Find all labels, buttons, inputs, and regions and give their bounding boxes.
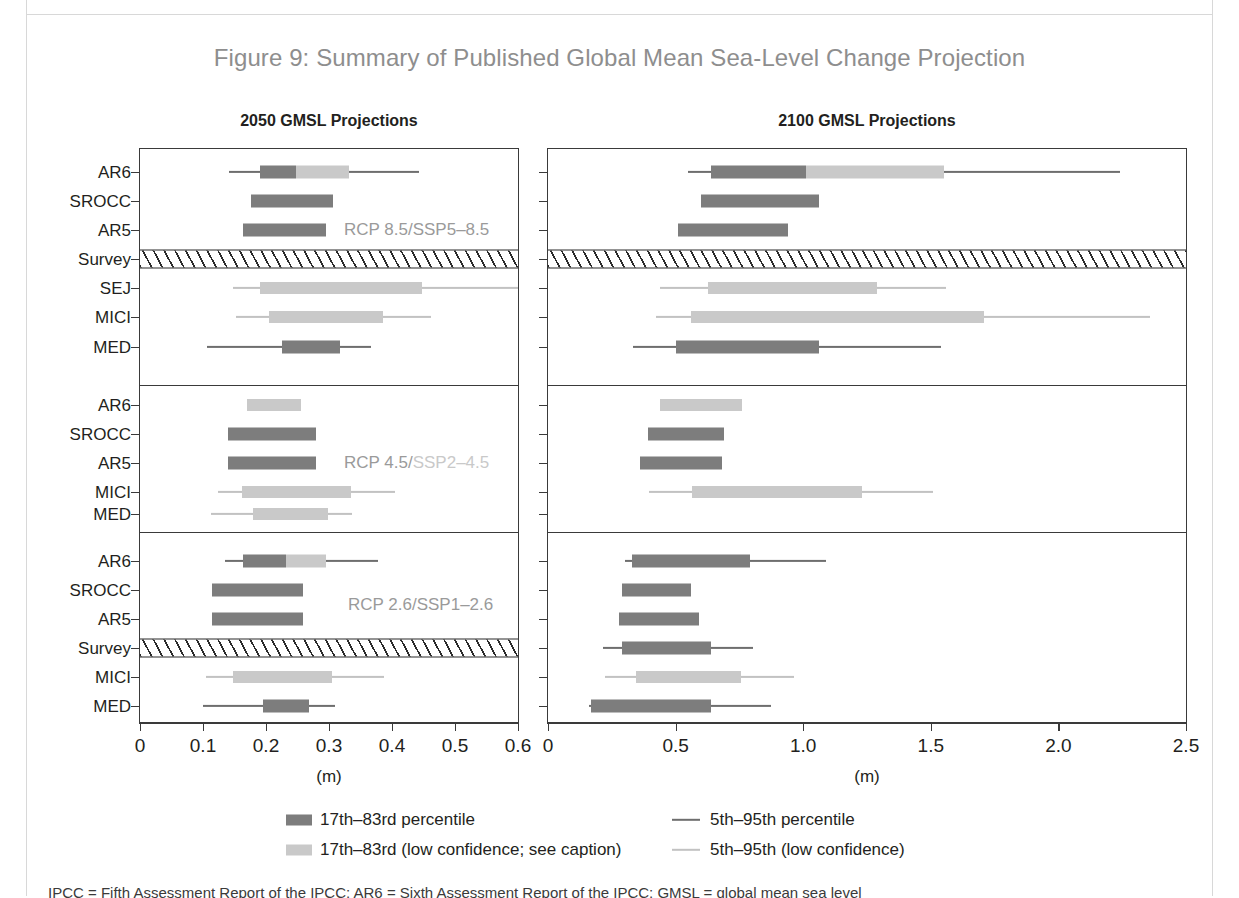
box-2100 xyxy=(619,613,698,626)
x-tick xyxy=(455,723,456,731)
survey-hatch-band xyxy=(140,250,518,269)
box-2050 xyxy=(253,508,327,520)
y-tick xyxy=(131,405,140,406)
box-2100 xyxy=(678,224,788,237)
box-2100 xyxy=(648,428,725,441)
legend-label-hc-line: 5th–95th percentile xyxy=(710,810,855,830)
y-tick xyxy=(539,677,548,678)
x-tick xyxy=(203,723,204,731)
row-label-column: AR6SROCCAR5SurveySEJMICIMEDAR6SROCCAR5MI… xyxy=(0,0,131,896)
x-tick-label: 0.2 xyxy=(253,735,279,757)
row-label-ar6: AR6 xyxy=(98,553,131,570)
row-label-mici: MICI xyxy=(95,309,131,326)
box-2100 xyxy=(708,282,878,294)
scenario-label: RCP 8.5/SSP5–8.5 xyxy=(344,220,489,240)
box-2050 xyxy=(233,671,332,683)
panel-title-2050: 2050 GMSL Projections xyxy=(140,112,518,130)
x-tick xyxy=(931,723,932,731)
x-tick-label: 1.0 xyxy=(790,735,816,757)
x-tick xyxy=(329,723,330,731)
y-tick xyxy=(539,706,548,707)
x-tick xyxy=(392,723,393,731)
box-2050 xyxy=(228,457,316,470)
box-2100 xyxy=(622,584,691,597)
box-2100 xyxy=(632,555,749,568)
box-2050 xyxy=(251,195,333,208)
x-tick-label: 0 xyxy=(543,735,554,757)
y-tick xyxy=(539,230,548,231)
legend-label-hc-box: 17th–83rd percentile xyxy=(320,810,475,830)
row-label-ar5: AR5 xyxy=(98,455,131,472)
survey-hatch-band xyxy=(140,639,518,658)
box-2100 xyxy=(636,671,741,683)
row-label-ar6: AR6 xyxy=(98,164,131,181)
y-tick xyxy=(539,201,548,202)
x-axis xyxy=(547,723,1187,724)
box-2050 xyxy=(212,584,303,597)
x-tick xyxy=(548,723,549,731)
figure-caption: IPCC = Fifth Assessment Report of the IP… xyxy=(48,884,1191,898)
legend-label-lc-line: 5th–95th (low confidence) xyxy=(710,840,905,860)
y-tick xyxy=(131,590,140,591)
box-2050 xyxy=(243,224,326,237)
row-label-srocc: SROCC xyxy=(70,426,131,443)
y-tick xyxy=(539,434,548,435)
y-tick xyxy=(131,648,140,649)
row-label-med: MED xyxy=(93,506,131,523)
box-2100 xyxy=(591,700,711,713)
y-tick xyxy=(131,492,140,493)
box-2050 xyxy=(247,399,301,411)
row-label-srocc: SROCC xyxy=(70,193,131,210)
x-tick xyxy=(803,723,804,731)
box-dark-2050 xyxy=(260,166,295,179)
x-tick-label: 0.4 xyxy=(379,735,405,757)
y-tick xyxy=(131,706,140,707)
box-2050 xyxy=(242,486,351,498)
box-2100 xyxy=(692,486,862,498)
y-tick xyxy=(131,259,140,260)
y-tick xyxy=(539,619,548,620)
x-tick-label: 2.5 xyxy=(1173,735,1199,757)
box-2050 xyxy=(212,613,303,626)
box-2100 xyxy=(640,457,722,470)
y-tick xyxy=(539,405,548,406)
x-tick-label: 0.5 xyxy=(662,735,688,757)
row-label-med: MED xyxy=(93,698,131,715)
box-dark-2050 xyxy=(243,555,286,568)
x-tick xyxy=(518,723,519,731)
x-tick xyxy=(266,723,267,731)
x-tick xyxy=(1058,723,1059,731)
y-tick xyxy=(539,172,548,173)
x-tick-label: 0 xyxy=(135,735,146,757)
axis-unit-label: (m) xyxy=(316,767,341,787)
block-divider xyxy=(547,532,1187,533)
legend-swatch-lc-box xyxy=(286,845,312,856)
box-2050 xyxy=(260,282,422,294)
survey-hatch-band xyxy=(548,250,1186,269)
panel-title-2100: 2100 GMSL Projections xyxy=(548,112,1186,130)
box-dark-2100 xyxy=(711,166,805,179)
y-tick xyxy=(539,317,548,318)
y-tick xyxy=(131,201,140,202)
box-2100 xyxy=(622,642,711,655)
y-tick xyxy=(539,347,548,348)
box-2100 xyxy=(676,341,819,354)
figure-legend: 17th–83rd percentile5th–95th percentile1… xyxy=(0,806,1239,868)
box-2100 xyxy=(701,195,818,208)
y-tick xyxy=(539,590,548,591)
legend-line-hc-line xyxy=(672,819,700,821)
box-light-2050 xyxy=(286,555,326,568)
box-2050 xyxy=(269,311,382,323)
x-tick-label: 0.1 xyxy=(190,735,216,757)
y-tick xyxy=(131,619,140,620)
scenario-label: RCP 2.6/SSP1–2.6 xyxy=(348,595,493,615)
x-tick-label: 0.6 xyxy=(505,735,531,757)
y-tick xyxy=(131,288,140,289)
y-tick xyxy=(131,434,140,435)
x-tick xyxy=(1186,723,1187,731)
y-tick xyxy=(539,561,548,562)
legend-label-lc-box: 17th–83rd (low confidence; see caption) xyxy=(320,840,621,860)
row-label-mici: MICI xyxy=(95,484,131,501)
y-tick xyxy=(539,492,548,493)
